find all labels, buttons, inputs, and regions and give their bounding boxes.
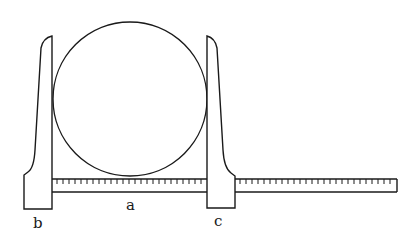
label-a: a — [126, 196, 135, 214]
label-b: b — [33, 214, 43, 232]
left-jaw — [24, 36, 52, 209]
caliper-diagram: b a c — [0, 0, 420, 238]
right-jaw — [207, 36, 235, 208]
sphere — [53, 22, 207, 176]
label-c: c — [214, 212, 222, 230]
